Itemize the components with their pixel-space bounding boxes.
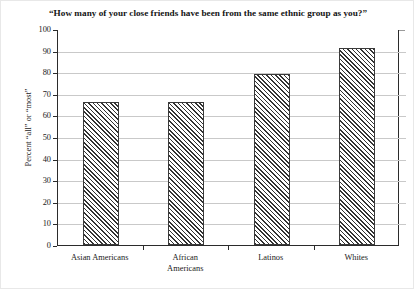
y-axis-tick-mark — [53, 181, 57, 182]
chart-figure: “How many of your close friends have bee… — [0, 0, 414, 289]
y-axis-tick-label: 0 — [21, 242, 51, 250]
x-axis-tick-label-line: Americans — [143, 264, 229, 275]
y-axis-tick-mark — [53, 138, 57, 139]
y-axis-tick-label: 10 — [21, 220, 51, 228]
y-axis-tick-label: 30 — [21, 177, 51, 185]
y-axis-tick-label: 40 — [21, 156, 51, 164]
x-axis-tick-label: Latinos — [228, 253, 314, 264]
chart-title: “How many of your close friends have bee… — [1, 7, 414, 19]
y-axis-tick-label: 50 — [21, 134, 51, 142]
y-axis-tick-mark — [53, 30, 57, 31]
y-axis-tick-label: 90 — [21, 48, 51, 56]
bar — [254, 74, 290, 245]
x-axis-tick-mark — [228, 246, 229, 250]
x-axis-tick-label: Whites — [314, 253, 400, 264]
x-axis-tick-label-line: Asian Americans — [57, 253, 143, 264]
y-axis-tick-mark — [53, 160, 57, 161]
y-axis-title: Percent “all” or “most” — [24, 68, 33, 188]
x-axis-tick-label: AfricanAmericans — [143, 253, 229, 274]
y-axis-tick-label: 80 — [21, 69, 51, 77]
y-axis-tick-label: 60 — [21, 112, 51, 120]
x-axis-tick-label-line: Latinos — [228, 253, 314, 264]
plot-area — [57, 30, 399, 246]
bar — [83, 102, 119, 245]
bar — [339, 48, 375, 245]
x-axis-tick-mark — [314, 246, 315, 250]
y-axis-tick-mark — [53, 52, 57, 53]
bar — [168, 102, 204, 245]
x-axis-tick-label-line: African — [143, 253, 229, 264]
y-axis-tick-label: 20 — [21, 199, 51, 207]
y-axis-tick-mark — [53, 203, 57, 204]
y-axis-tick-mark — [53, 246, 57, 247]
x-axis-tick-mark — [143, 246, 144, 250]
y-axis-tick-mark — [53, 224, 57, 225]
y-axis-tick-label: 100 — [21, 26, 51, 34]
y-axis-tick-mark — [53, 73, 57, 74]
y-axis-tick-mark — [53, 116, 57, 117]
x-axis-tick-label-line: Whites — [314, 253, 400, 264]
x-axis-tick-label: Asian Americans — [57, 253, 143, 264]
y-axis-tick-mark — [53, 95, 57, 96]
y-axis-tick-label: 70 — [21, 91, 51, 99]
